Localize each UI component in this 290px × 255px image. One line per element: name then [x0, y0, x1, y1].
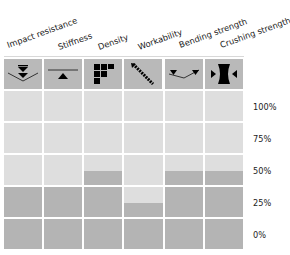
stiffness-icon-cell — [44, 59, 82, 89]
bar-workability — [124, 91, 163, 249]
bar-fill — [84, 171, 122, 249]
scale-label-100: 100% — [253, 102, 276, 112]
density-icon-cell — [84, 59, 122, 89]
bending-icon — [165, 59, 203, 89]
scale-label-25: 25% — [253, 198, 271, 208]
impact-icon-cell — [4, 59, 42, 89]
header-crushing-strength: Crushing strength — [219, 15, 290, 50]
workability-icon — [124, 59, 162, 89]
bar-impact-resistance — [4, 91, 42, 249]
stiffness-icon — [44, 59, 82, 89]
bending-icon-cell — [165, 59, 203, 89]
scale-label-0: 0% — [253, 230, 266, 240]
bar-density — [84, 91, 122, 249]
density-icon — [84, 59, 122, 89]
scale-label-75: 75% — [253, 134, 271, 144]
bar-fill — [124, 203, 163, 249]
header-workability: Workability — [137, 27, 184, 52]
header-stiffness: Stiffness — [57, 30, 94, 52]
bar-crushing-strength — [205, 91, 243, 249]
workability-icon-cell — [124, 59, 162, 89]
bar-bending-strength — [165, 91, 203, 249]
scale-label-50: 50% — [253, 166, 271, 176]
impact-icon — [4, 59, 42, 89]
bar-fill — [165, 171, 203, 249]
header-divider — [4, 56, 244, 57]
bar-stiffness — [44, 91, 82, 249]
crushing-icon-cell — [205, 59, 243, 89]
header-density: Density — [97, 32, 130, 52]
bar-fill — [205, 171, 243, 249]
crushing-icon — [205, 59, 243, 89]
